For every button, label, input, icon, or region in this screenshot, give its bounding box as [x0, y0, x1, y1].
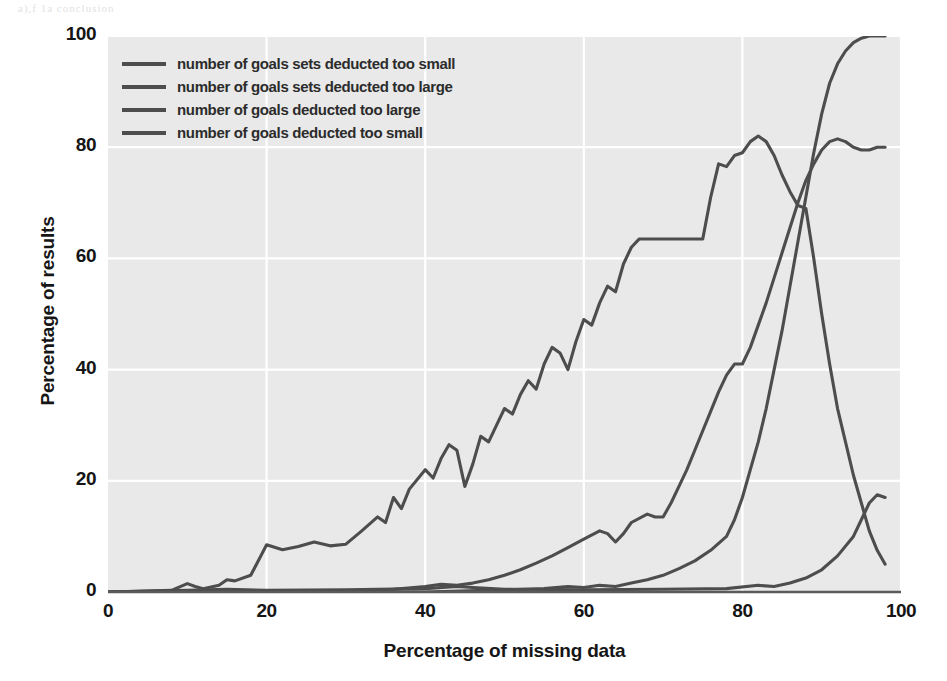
y-tick-label: 80	[42, 134, 96, 156]
x-tick-label: 40	[395, 600, 455, 622]
x-tick-label: 0	[78, 600, 138, 622]
y-tick-label: 100	[42, 23, 96, 45]
legend-item-1[interactable]: number of goals sets deducted too large	[122, 75, 455, 98]
legend-line-swatch-icon	[122, 131, 166, 135]
x-tick-label: 60	[554, 600, 614, 622]
legend-item-3[interactable]: number of goals deducted too small	[122, 121, 455, 144]
legend-item-label: number of goals sets deducted too large	[177, 78, 453, 95]
x-tick-label: 80	[712, 600, 772, 622]
legend-item-label: number of goals sets deducted too small	[177, 55, 455, 72]
legend-item-label: number of goals deducted too large	[177, 101, 420, 118]
y-axis-label: Percentage of results	[37, 191, 59, 431]
legend-line-swatch-icon	[122, 108, 166, 112]
legend-item-0[interactable]: number of goals sets deducted too small	[122, 52, 455, 75]
chart-figure: a),f 1a conclusion 020406080100 02040608…	[0, 0, 947, 681]
legend-line-swatch-icon	[122, 85, 166, 89]
x-tick-label: 20	[237, 600, 297, 622]
chart-legend[interactable]: number of goals sets deducted too smalln…	[118, 48, 461, 148]
x-tick-label: 100	[871, 600, 931, 622]
y-tick-label: 20	[42, 468, 96, 490]
legend-line-swatch-icon	[122, 62, 166, 66]
legend-item-label: number of goals deducted too small	[177, 124, 423, 141]
y-tick-label: 0	[42, 579, 96, 601]
legend-item-2[interactable]: number of goals deducted too large	[122, 98, 455, 121]
x-axis-label: Percentage of missing data	[108, 640, 901, 662]
